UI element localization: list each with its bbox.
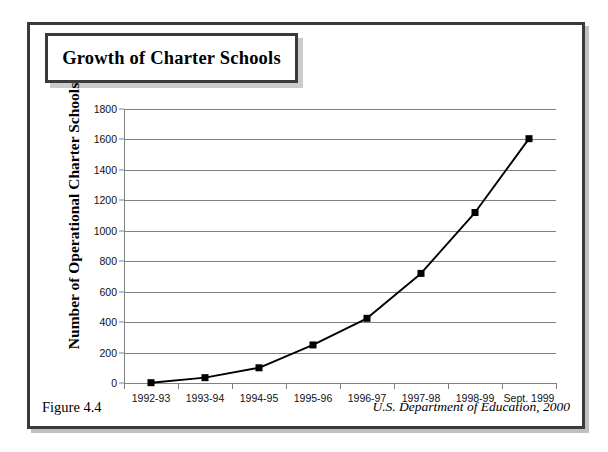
- y-tick-label: 200: [99, 347, 117, 359]
- data-point-marker: [364, 315, 371, 322]
- x-tick-mark: [448, 383, 449, 389]
- plot-area: 020040060080010001200140016001800 1992-9…: [124, 109, 556, 383]
- data-point-marker: [418, 270, 425, 277]
- x-tick-mark: [556, 383, 557, 389]
- y-tick-label: 800: [99, 255, 117, 267]
- y-tick-label: 1800: [94, 103, 117, 115]
- source-note: U.S. Department of Education, 2000: [372, 399, 570, 415]
- chart-region: Number of Operational Charter Schools 02…: [30, 87, 582, 407]
- data-point-marker: [256, 364, 263, 371]
- x-tick-mark: [232, 383, 233, 389]
- x-tick-mark: [394, 383, 395, 389]
- x-tick-mark: [286, 383, 287, 389]
- data-series-line: [124, 109, 556, 383]
- x-tick-mark: [178, 383, 179, 389]
- y-tick-label: 1000: [94, 225, 117, 237]
- data-point-marker: [148, 379, 155, 386]
- figure-frame: Growth of Charter Schools Number of Oper…: [27, 22, 585, 429]
- y-tick-label: 1400: [94, 164, 117, 176]
- y-tick-label: 1600: [94, 133, 117, 145]
- data-point-marker: [310, 341, 317, 348]
- y-tick-label: 0: [111, 377, 117, 389]
- page-title: Growth of Charter Schools: [62, 48, 281, 69]
- figure-footer: Figure 4.4 U.S. Department of Education,…: [30, 399, 582, 419]
- y-axis-title: Number of Operational Charter Schools: [65, 76, 83, 356]
- y-tick-label: 1200: [94, 194, 117, 206]
- y-tick-label: 400: [99, 316, 117, 328]
- data-point-marker: [202, 374, 209, 381]
- x-tick-mark: [502, 383, 503, 389]
- data-point-marker: [472, 209, 479, 216]
- x-tick-mark: [124, 383, 125, 389]
- data-point-marker: [526, 135, 533, 142]
- figure-caption: Figure 4.4: [42, 399, 102, 416]
- y-tick-label: 600: [99, 286, 117, 298]
- x-tick-mark: [340, 383, 341, 389]
